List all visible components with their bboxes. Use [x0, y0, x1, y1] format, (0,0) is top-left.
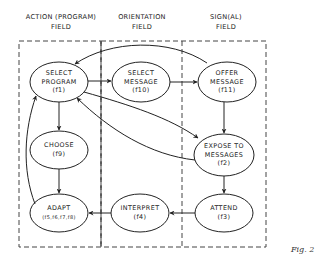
label-function: (f5,f6,f7,f8)	[30, 213, 88, 222]
header-orientation-line1: ORIENTATION	[102, 12, 182, 22]
label-function: (f1)	[30, 86, 88, 95]
label-function: (f9)	[30, 150, 88, 159]
header-signal-line2: FIELD	[186, 22, 266, 32]
label-line: MESSAGES	[194, 151, 254, 160]
header-action-line2: FIELD	[17, 22, 105, 32]
label-interpret: INTERPRET (f4)	[111, 204, 169, 221]
diagram-canvas	[0, 0, 324, 266]
edge-offer-to-select-program	[75, 45, 207, 64]
label-line: MESSAGE	[112, 78, 170, 87]
label-line: EXPOSE TO	[194, 142, 254, 151]
label-attend: ATTEND (f3)	[195, 204, 253, 221]
header-signal-line1: SIGN(AL)	[186, 12, 266, 22]
label-function: (f3)	[195, 213, 253, 222]
label-line: ATTEND	[195, 204, 253, 213]
label-line: SELECT	[30, 69, 88, 78]
label-line: OFFER	[198, 69, 256, 78]
label-function: (f11)	[198, 86, 256, 95]
label-function: (f10)	[112, 86, 170, 95]
label-offer-message: OFFER MESSAGE (f11)	[198, 69, 256, 95]
edge-expose-to-select-program	[77, 98, 195, 160]
header-action-line1: ACTION (PROGRAM)	[17, 12, 105, 22]
header-signal-field: SIGN(AL) FIELD	[186, 12, 266, 32]
label-adapt: ADAPT (f5,f6,f7,f8)	[30, 204, 88, 221]
label-expose-to-messages: EXPOSE TO MESSAGES (f2)	[194, 142, 254, 168]
label-select-program: SELECT PROGRAM (f1)	[30, 69, 88, 95]
label-line: INTERPRET	[111, 204, 169, 213]
header-action-field: ACTION (PROGRAM) FIELD	[17, 12, 105, 32]
header-orientation-field: ORIENTATION FIELD	[102, 12, 182, 32]
label-line: PROGRAM	[30, 78, 88, 87]
header-orientation-line2: FIELD	[102, 22, 182, 32]
label-select-message: SELECT MESSAGE (f10)	[112, 69, 170, 95]
label-function: (f2)	[194, 159, 254, 168]
label-line: SELECT	[112, 69, 170, 78]
label-function: (f4)	[111, 213, 169, 222]
label-line: CHOOSE	[30, 141, 88, 150]
label-line: ADAPT	[30, 204, 88, 213]
figure-caption: Fig. 2	[291, 245, 314, 254]
label-choose: CHOOSE (f9)	[30, 141, 88, 158]
label-line: MESSAGE	[198, 78, 256, 87]
